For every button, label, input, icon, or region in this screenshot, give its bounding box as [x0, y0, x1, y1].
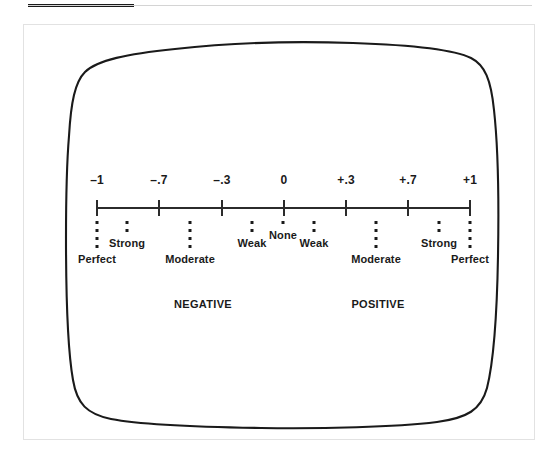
axis-tick-minus-1 [96, 200, 98, 216]
dot-leader-none [282, 221, 285, 224]
axis-tick-plus-1 [469, 200, 471, 216]
descriptor-perfect-negative: Perfect [78, 253, 116, 265]
axis-tick-minus-03 [221, 200, 223, 216]
descriptor-strong-negative: Strong [109, 237, 145, 249]
dot-leader-weak-negative [251, 221, 254, 232]
polarity-label-negative: NEGATIVE [174, 298, 232, 310]
descriptor-weak-positive: Weak [300, 237, 329, 249]
correlation-scale: –1 –.7 –.3 0 +.3 +.7 +1 [96, 173, 470, 323]
polarity-label-positive: POSITIVE [351, 298, 404, 310]
figure-page: –1 –.7 –.3 0 +.3 +.7 +1 [0, 0, 560, 461]
axis-tick-zero [283, 200, 285, 216]
dot-leader-perfect-positive [469, 221, 472, 248]
header-rule-thin [28, 5, 532, 6]
dot-leader-strong-positive [438, 221, 441, 232]
axis-tick-label-minus-1: –1 [90, 173, 104, 187]
axis-tick-minus-07 [158, 200, 160, 216]
axis-tick-plus-07 [407, 200, 409, 216]
dot-leader-strong-negative [126, 221, 129, 232]
descriptor-none: None [269, 229, 297, 241]
descriptor-moderate-positive: Moderate [351, 253, 401, 265]
dot-leader-weak-positive [313, 221, 316, 232]
dot-leader-moderate-negative [189, 221, 192, 248]
dot-leader-perfect-negative [96, 221, 99, 248]
axis-tick-label-plus-1: +1 [463, 173, 477, 187]
descriptor-strong-positive: Strong [421, 237, 457, 249]
axis-tick-label-minus-07: –.7 [150, 173, 167, 187]
axis-tick-label-plus-07: +.7 [399, 173, 417, 187]
axis-tick-label-minus-03: –.3 [213, 173, 230, 187]
axis-tick-label-plus-03: +.3 [337, 173, 355, 187]
descriptor-weak-negative: Weak [238, 237, 267, 249]
axis-tick-label-zero: 0 [281, 173, 288, 187]
descriptor-perfect-positive: Perfect [451, 253, 489, 265]
descriptor-moderate-negative: Moderate [165, 253, 215, 265]
dot-leader-moderate-positive [375, 221, 378, 248]
axis-tick-plus-03 [345, 200, 347, 216]
